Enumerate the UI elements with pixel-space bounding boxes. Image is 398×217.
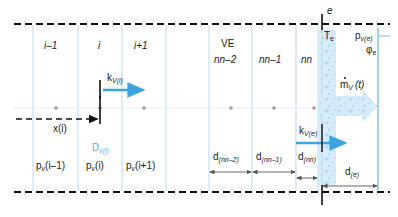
temperature-e-label: Te: [324, 31, 334, 41]
dimension-nn-base: d: [298, 151, 304, 162]
vapour-flux-i-sub: V(i): [112, 77, 123, 84]
position-x-i-label: x(i): [53, 124, 67, 134]
ve-label: VE: [221, 39, 234, 49]
vapour-pressure-i-plus-1-arg: (i+1): [135, 160, 155, 171]
dimension-e-sub: (e): [351, 171, 360, 178]
vapour-flux-i-label: kV(i): [107, 73, 123, 83]
vapour-pressure-i-plus-1-base: p: [126, 160, 132, 171]
dimension-nn-minus-2-sub: (nn–2): [219, 156, 239, 163]
dimension-label-nn: d(nn): [298, 152, 316, 162]
vapour-pressure-e-base: p: [355, 30, 361, 41]
diffusivity-i-sub: v(i): [99, 147, 109, 154]
vapour-pressure-i-arg: (i): [95, 160, 104, 171]
vapour-flux-e-label: kV(e): [299, 126, 317, 136]
vapour-mass-flow-arg: (t): [355, 79, 364, 90]
exterior-surface-label: e: [327, 6, 333, 16]
position-x-i-arg: (i): [58, 123, 67, 134]
temperature-e-sub: e: [330, 35, 334, 42]
dimension-nn-minus-1-base: d: [256, 151, 262, 162]
dimension-label-nn-minus-2: d(nn–2): [213, 152, 239, 162]
dimension-label-e: d(e): [345, 167, 359, 177]
vapour-pressure-i-plus-1-sub: v: [132, 165, 136, 172]
vapour-pressure-i-minus-1-sub: v: [42, 165, 46, 172]
vapour-mass-flow-sub: V: [348, 84, 353, 91]
vapour-pressure-i-minus-1-label: pv(i–1): [36, 161, 65, 171]
vapour-pressure-e-label: pv(e): [355, 31, 373, 41]
diagram-canvas: i–1 i i+1 VE nn–2 nn–1 nn e Te pv(e) φe …: [0, 0, 398, 217]
position-arrow-x-i: [16, 96, 100, 124]
vapour-pressure-i-plus-1-label: pv(i+1): [126, 161, 155, 171]
vapour-pressure-i-minus-1-base: p: [36, 160, 42, 171]
node-label-nn-minus-1: nn–1: [259, 55, 281, 65]
vapour-pressure-i-sub: v: [92, 165, 96, 172]
diagram-vector-layer: [0, 0, 398, 217]
vapour-mass-flow-label: mV(t): [340, 80, 362, 90]
vapour-pressure-i-label: pv(i): [86, 161, 104, 171]
node-label-nn: nn: [301, 55, 312, 65]
dimension-nn-sub: (nn): [304, 156, 316, 163]
dimension-nn-minus-2-base: d: [213, 151, 219, 162]
vapour-pressure-e-sub: v(e): [361, 35, 373, 42]
vapour-pressure-i-minus-1-arg: (i–1): [45, 160, 65, 171]
node-label-i-minus-1: i–1: [44, 41, 57, 51]
dimension-label-nn-minus-1: d(nn–1): [256, 152, 282, 162]
relative-humidity-e-sub: e: [372, 49, 376, 56]
node-label-i-plus-1: i+1: [134, 41, 148, 51]
right-blue-edge: [378, 28, 390, 190]
node-label-nn-minus-2: nn–2: [214, 55, 236, 65]
relative-humidity-e-label: φe: [366, 45, 376, 55]
dimension-nn-minus-1-sub: (nn–1): [262, 156, 282, 163]
vapour-flux-e-sub: V(e): [304, 130, 317, 137]
node-label-i: i: [98, 41, 100, 51]
vapour-pressure-i-base: p: [86, 160, 92, 171]
diffusivity-i-label: Dv(i): [92, 143, 109, 153]
dimension-e-base: d: [345, 166, 351, 177]
